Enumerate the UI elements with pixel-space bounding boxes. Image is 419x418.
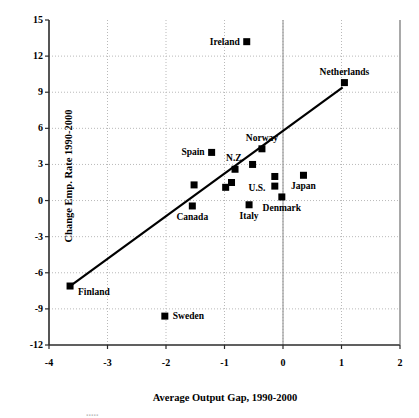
data-point-marker [278,193,285,200]
scatter-plot-figure: -12-9-6-303691215 -4-3-2-1012 IrelandNet… [0,0,419,418]
data-point-marker [249,161,256,168]
point-label-italy: Italy [240,212,259,222]
y-tick-label: 15 [19,15,43,25]
y-tick-label: 6 [19,123,43,133]
x-tick-label: 0 [281,358,286,368]
y-tick-label: 9 [19,87,43,97]
data-point-marker [161,313,168,320]
data-point-marker [67,283,74,290]
y-tick-label: 3 [19,159,43,169]
x-tick-label: -4 [45,358,53,368]
x-axis-title: Average Output Gap, 1990-2000 [153,392,297,403]
data-point-marker [191,181,198,188]
chart-screenshot: -12-9-6-303691215 -4-3-2-1012 IrelandNet… [0,0,419,418]
data-point-marker [189,202,196,209]
x-tick-label: 2 [398,358,403,368]
x-tick-label: -1 [220,358,228,368]
y-tick-label: -9 [19,304,43,314]
point-label-netherlands: Netherlands [320,67,370,77]
data-point-marker [341,79,348,86]
y-tick-label: 0 [19,196,43,206]
data-point-marker [208,149,215,156]
y-tick-label: -12 [19,340,43,350]
cropped-caption: ..... [0,411,419,418]
data-point-marker [243,38,250,45]
x-tick-label: -3 [103,358,111,368]
data-point-marker [258,145,265,152]
point-label-norway: Norway [246,133,278,143]
data-point-marker [232,166,239,173]
data-point-marker [300,172,307,179]
y-axis-title: Change Emp. Rate 1990-2000 [63,110,74,243]
point-label-finland: Finland [78,288,110,298]
y-tick-label: -3 [19,232,43,242]
point-label-denmark: Denmark [263,204,302,214]
point-label-canada: Canada [176,213,208,223]
data-point-marker [246,201,253,208]
point-label-us: U.S. [249,184,266,194]
point-label-sweden: Sweden [173,312,204,322]
point-label-spain: Spain [181,149,204,159]
point-label-ireland: Ireland [210,38,240,48]
point-label-japan: Japan [291,182,316,192]
cropped-caption-text: ..... [86,411,99,418]
x-tick-label: -2 [162,358,170,368]
data-point-marker [271,183,278,190]
y-tick-label: 12 [19,51,43,61]
y-tick-label: -6 [19,268,43,278]
point-label-n-z: N.Z. [226,154,244,164]
data-point-marker [222,184,229,191]
data-point-marker [271,173,278,180]
x-tick-label: 1 [339,358,344,368]
